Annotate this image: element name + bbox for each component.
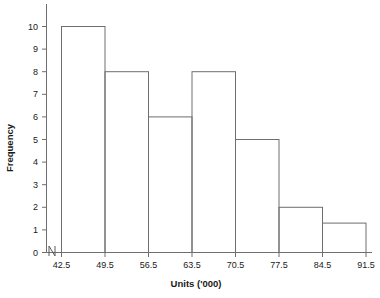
- x-tick-label-6: 84.5: [314, 260, 332, 270]
- x-tick-label-3: 63.5: [183, 260, 201, 270]
- y-tick-label-9: 9: [33, 44, 38, 54]
- x-tick-label-2: 56.5: [140, 260, 158, 270]
- y-axis-ticks: 0 1 2 3 4 5 6 7 8 9 10: [28, 22, 47, 258]
- y-tick-label-7: 7: [33, 89, 38, 99]
- y-tick-label-0: 0: [33, 248, 38, 258]
- y-tick-label-10: 10: [28, 22, 38, 32]
- x-axis-ticks: 42.5 49.5 56.5 63.5 70.5 77.5 84.5 91.5: [53, 253, 375, 271]
- histogram-bar: [236, 140, 280, 253]
- histogram-bar: [192, 72, 236, 253]
- y-tick-label-3: 3: [33, 180, 38, 190]
- axis-break-icon: [49, 246, 55, 256]
- histogram-bar: [279, 207, 323, 252]
- histogram-bar: [149, 117, 193, 253]
- histogram-bar: [323, 223, 367, 252]
- y-tick-label-1: 1: [33, 225, 38, 235]
- x-tick-label-5: 77.5: [270, 260, 288, 270]
- x-tick-label-4: 70.5: [227, 260, 245, 270]
- y-tick-label-8: 8: [33, 67, 38, 77]
- histogram-chart: Frequency 0 1 2 3 4 5 6 7 8 9: [0, 0, 380, 298]
- histogram-bar: [105, 72, 149, 253]
- x-tick-label-7: 91.5: [357, 260, 375, 270]
- y-axis-title: Frequency: [4, 123, 15, 172]
- x-axis-title: Units ('000): [171, 278, 222, 289]
- chart-svg: Frequency 0 1 2 3 4 5 6 7 8 9: [0, 0, 380, 298]
- histogram-bar: [62, 27, 106, 253]
- y-tick-label-2: 2: [33, 202, 38, 212]
- x-tick-label-0: 42.5: [53, 260, 71, 270]
- x-tick-label-1: 49.5: [96, 260, 114, 270]
- histogram-bars: [62, 27, 367, 253]
- y-tick-label-5: 5: [33, 135, 38, 145]
- y-tick-label-6: 6: [33, 112, 38, 122]
- y-tick-label-4: 4: [33, 157, 38, 167]
